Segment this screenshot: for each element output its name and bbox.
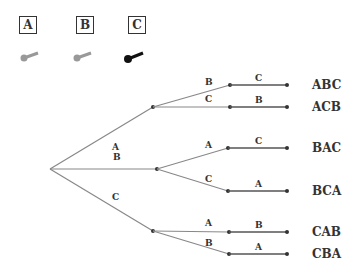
edge-label: A [254,179,263,189]
outcome-label: ACB [311,100,341,114]
outcome-label: CAB [312,225,341,239]
edge-label: A [204,218,213,228]
edge-label: B [255,95,263,105]
edge-label: A [111,142,120,152]
branch-edge [50,169,153,231]
edge-label: C [255,136,262,146]
outcome-label: BCA [312,184,342,198]
branch-edge [153,231,229,254]
leaf-node [285,83,289,87]
key-icon-b [74,53,92,62]
leaf-node [285,105,289,109]
outcome-label: ABC [311,78,341,92]
leaf-node [285,146,289,150]
edge-label: A [204,140,213,150]
leaf-node [285,230,289,234]
outcome-label: CBA [312,247,342,261]
tree-diagram: ABCBCABCCBACBACBACCABCAABCABBACBA [0,0,360,278]
edge-label: B [205,238,213,248]
edge-label: B [113,152,121,162]
edge-label: B [255,220,263,230]
branch-edge [157,148,228,169]
branch-edge [153,231,229,232]
edge-label: C [255,73,262,83]
edge-label: C [205,94,212,104]
leaf-node [285,252,289,256]
edge-label: B [205,77,213,87]
branch-edge [50,107,153,169]
key-icon-c [124,53,143,63]
branch-edge [153,85,230,107]
edge-label: A [254,242,263,252]
edge-label: C [205,174,212,184]
outcome-label: BAC [312,141,341,155]
key-icon-a [21,53,39,62]
branch-edge [157,169,228,191]
leaf-node [285,189,289,193]
edge-label: C [112,192,119,202]
